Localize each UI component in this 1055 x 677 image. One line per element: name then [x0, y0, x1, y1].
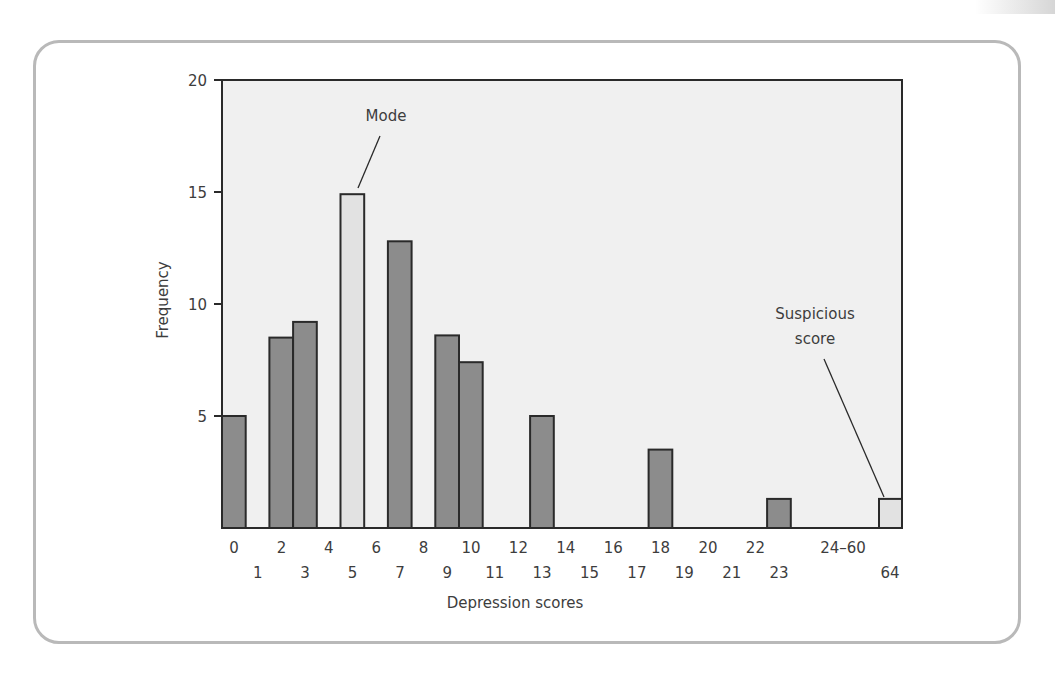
bar-9 — [435, 335, 459, 528]
x-tick-label: 1 — [253, 564, 263, 582]
mode-label: Mode — [366, 107, 407, 125]
x-tick-label: 6 — [371, 539, 381, 557]
y-tick-label: 5 — [197, 408, 207, 426]
x-tick-label: 18 — [651, 539, 670, 557]
bar-18 — [649, 450, 673, 528]
x-tick-label: 2 — [277, 539, 287, 557]
bar-23 — [767, 499, 791, 528]
bar-0 — [222, 416, 246, 528]
x-tick-label: 64 — [880, 564, 899, 582]
bar-10 — [459, 362, 483, 528]
x-tick-label: 5 — [348, 564, 358, 582]
y-axis: 20 15 10 5 — [188, 72, 222, 426]
y-tick-label: 20 — [188, 72, 207, 90]
x-tick-label: 23 — [770, 564, 789, 582]
x-tick-label: 8 — [419, 539, 429, 557]
x-tick-label: 19 — [675, 564, 694, 582]
x-tick-label: 15 — [580, 564, 599, 582]
x-tick-label: 7 — [395, 564, 405, 582]
x-tick-label: 21 — [722, 564, 741, 582]
x-tick-label: 10 — [461, 539, 480, 557]
x-tick-label: 17 — [627, 564, 646, 582]
x-tick-label: 12 — [509, 539, 528, 557]
suspicious-label-line2: score — [795, 330, 835, 348]
bar-7 — [388, 241, 412, 528]
histogram-chart: 20 15 10 5 Frequency 0246810121416182022… — [0, 0, 1055, 677]
x-tick-label: 16 — [604, 539, 623, 557]
plot-area — [222, 80, 902, 528]
bar-3 — [293, 322, 317, 528]
y-tick-label: 15 — [188, 184, 207, 202]
x-tick-label: 14 — [556, 539, 575, 557]
bar-2 — [269, 338, 293, 528]
highlighted-bar-64 — [879, 499, 902, 528]
x-tick-label: 20 — [698, 539, 717, 557]
x-tick-label: 11 — [485, 564, 504, 582]
x-tick-label: 9 — [443, 564, 453, 582]
x-tick-label: 22 — [746, 539, 765, 557]
suspicious-label-line1: Suspicious — [775, 305, 855, 323]
y-tick-label: 10 — [188, 296, 207, 314]
x-axis-labels: 024681012141618202224–601357911131517192… — [229, 539, 899, 582]
x-tick-label: 13 — [533, 564, 552, 582]
x-axis-title: Depression scores — [447, 594, 584, 612]
x-tick-label: 0 — [229, 539, 239, 557]
highlighted-bar-5 — [341, 194, 365, 528]
bar-13 — [530, 416, 554, 528]
x-tick-label: 4 — [324, 539, 334, 557]
x-tick-label: 3 — [300, 564, 310, 582]
x-tick-label: 24–60 — [820, 539, 866, 557]
y-axis-title: Frequency — [154, 261, 172, 339]
